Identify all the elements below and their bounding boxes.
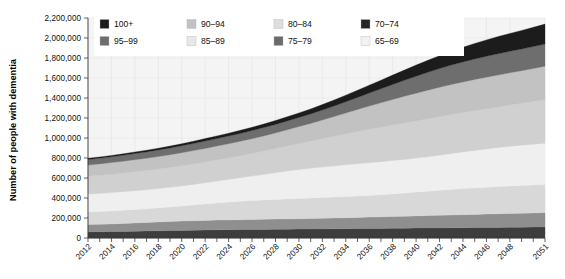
legend-swatch [274, 20, 283, 29]
legend-item-100plus[interactable]: 100+ [100, 19, 133, 29]
y-tick-label: 800,000 [51, 154, 81, 163]
legend-item-85–89[interactable]: 85–89 [187, 36, 225, 46]
y-tick-label: 0 [76, 234, 81, 243]
legend-item-90–94[interactable]: 90–94 [187, 19, 225, 29]
chart-container: 0200,000400,000600,000800,0001,000,0001,… [0, 0, 565, 279]
legend-swatch [100, 20, 109, 29]
legend-label: 85–89 [201, 36, 225, 46]
y-tick-label: 2,000,000 [45, 34, 82, 43]
y-tick-label: 1,800,000 [45, 54, 82, 63]
y-tick-label: 200,000 [51, 214, 81, 223]
legend-label: 80–84 [288, 19, 312, 29]
y-tick-label: 1,000,000 [45, 134, 82, 143]
y-axis-title: Number of people with dementia [8, 58, 18, 201]
y-tick-label: 2,200,000 [45, 14, 82, 23]
legend-item-75–79[interactable]: 75–79 [274, 36, 312, 46]
legend-item-70–74[interactable]: 70–74 [361, 19, 399, 29]
legend-label: 65–69 [375, 36, 399, 46]
y-tick-label: 1,400,000 [45, 94, 82, 103]
legend-label: 75–79 [288, 36, 312, 46]
legend-label: 70–74 [375, 19, 399, 29]
legend-swatch [361, 37, 370, 46]
y-tick-label: 1,600,000 [45, 74, 82, 83]
legend-swatch [100, 37, 109, 46]
stacked-area-chart: 0200,000400,000600,000800,0001,000,0001,… [0, 0, 565, 279]
legend-item-65–69[interactable]: 65–69 [361, 36, 399, 46]
legend-swatch [274, 37, 283, 46]
legend-swatch [361, 20, 370, 29]
legend-swatch [187, 37, 196, 46]
legend-label: 90–94 [201, 19, 225, 29]
legend-item-95–99[interactable]: 95–99 [100, 36, 138, 46]
chart-legend: 100+90–9480–8470–7495–9985–8975–7965–69 [94, 16, 464, 56]
legend-item-80–84[interactable]: 80–84 [274, 19, 312, 29]
y-tick-label: 600,000 [51, 174, 81, 183]
y-tick-label: 400,000 [51, 194, 81, 203]
legend-label: 95–99 [114, 36, 138, 46]
y-tick-label: 1,200,000 [45, 114, 82, 123]
legend-label: 100+ [114, 19, 133, 29]
legend-swatch [187, 20, 196, 29]
